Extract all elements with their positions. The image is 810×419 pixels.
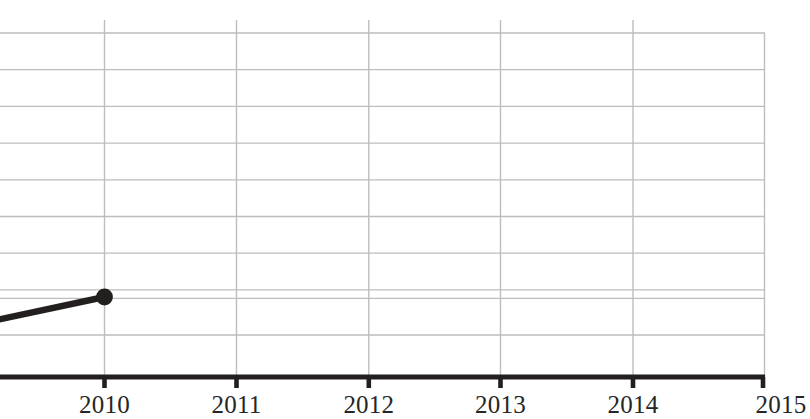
series-1-line <box>0 297 105 321</box>
x-axis <box>0 377 765 388</box>
x-tick-label-2015: 2015 <box>756 392 807 417</box>
series-1-line-group <box>0 289 113 321</box>
x-tick-label-2010: 2010 <box>79 392 130 417</box>
x-tick-label-2012: 2012 <box>343 392 394 417</box>
x-tick-label-2014: 2014 <box>608 392 659 417</box>
chart-container: 2010 2011 2012 2013 2014 2015 <box>0 0 810 419</box>
series-1-data-point-2010 <box>96 289 113 306</box>
x-tick-label-2013: 2013 <box>475 392 526 417</box>
horizontal-gridlines <box>0 33 765 335</box>
line-chart-plot <box>0 0 810 419</box>
x-tick-label-2011: 2011 <box>212 392 262 417</box>
vertical-gridlines <box>105 20 765 377</box>
